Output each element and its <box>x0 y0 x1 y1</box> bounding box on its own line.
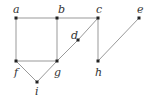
vertex-label-g: g <box>54 66 61 79</box>
vertex-a <box>15 17 18 20</box>
edges <box>16 18 139 82</box>
vertex-label-i: i <box>35 85 39 98</box>
graph-diagram: abcedfghi <box>0 0 151 98</box>
vertex-f <box>15 60 18 63</box>
vertex-label-d: d <box>71 29 78 42</box>
vertex-c <box>97 17 100 20</box>
vertex-g <box>56 60 59 63</box>
vertex-label-c: c <box>96 3 102 16</box>
vertex-label-h: h <box>95 66 102 79</box>
vertex-i <box>36 81 39 84</box>
edge-f-i <box>16 61 37 82</box>
vertex-h <box>97 60 100 63</box>
vertex-label-a: a <box>13 3 20 16</box>
edge-c-d <box>78 18 98 40</box>
vertices: abcedfghi <box>13 3 144 98</box>
edge-h-e <box>98 18 139 61</box>
vertex-e <box>138 17 141 20</box>
vertex-label-b: b <box>58 3 65 16</box>
vertex-label-e: e <box>137 3 144 16</box>
vertex-b <box>56 17 59 20</box>
edge-d-g <box>57 40 78 61</box>
vertex-label-f: f <box>13 66 20 79</box>
